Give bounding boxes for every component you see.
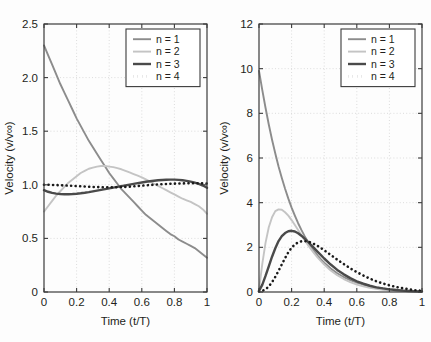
- chart-left: 00.20.40.60.8100.51.01.52.02.5Time (t/T)…: [0, 0, 216, 342]
- y-tick-label: 4: [247, 197, 254, 209]
- x-tick-label: 1: [204, 296, 210, 308]
- figure-container: 00.20.40.60.8100.51.01.52.02.5Time (t/T)…: [0, 0, 431, 342]
- legend-label-n2: n = 2: [156, 45, 180, 57]
- x-tick-label: 0.8: [166, 296, 182, 308]
- y-tick-label: 0: [247, 286, 253, 298]
- y-tick-label: 0: [32, 286, 38, 298]
- legend-label-n4: n = 4: [371, 70, 395, 82]
- x-tick-label: 0.6: [349, 296, 365, 308]
- x-tick-label: 0.4: [101, 296, 118, 308]
- x-tick-label: 0.8: [381, 296, 397, 308]
- y-tick-label: 6: [247, 152, 253, 164]
- series-line-n2: [259, 209, 422, 291]
- x-tick-label: 1: [419, 296, 425, 308]
- series-line-n1: [259, 71, 422, 291]
- y-tick-label: 2.0: [22, 72, 38, 84]
- y-tick-label: 1.5: [22, 125, 38, 137]
- x-tick-label: 0: [41, 296, 47, 308]
- y-axis-label: Velocity (v/v∞): [3, 121, 15, 195]
- x-tick-label: 0.4: [316, 296, 333, 308]
- y-tick-label: 2.5: [22, 18, 38, 30]
- legend-label-n4: n = 4: [156, 70, 180, 82]
- x-axis-label: Time (t/T): [101, 315, 151, 327]
- chart-panel-left: 00.20.40.60.8100.51.01.52.02.5Time (t/T)…: [0, 0, 216, 342]
- y-tick-label: 0.5: [22, 232, 38, 244]
- chart-right: 00.20.40.60.81024681012Time (t/T)Velocit…: [215, 0, 431, 342]
- legend-label-n3: n = 3: [156, 58, 180, 70]
- x-tick-label: 0: [256, 296, 262, 308]
- series-line-n4: [259, 241, 422, 291]
- y-tick-label: 12: [240, 18, 253, 30]
- x-tick-label: 0.2: [69, 296, 85, 308]
- y-tick-label: 1.0: [22, 179, 38, 191]
- series-line-n2: [44, 166, 207, 214]
- x-tick-label: 0.6: [134, 296, 150, 308]
- y-tick-label: 2: [247, 241, 253, 253]
- y-tick-label: 10: [240, 63, 253, 75]
- y-tick-label: 8: [247, 107, 253, 119]
- legend: n = 1n = 2n = 3n = 4: [341, 29, 415, 87]
- legend-label-n1: n = 1: [156, 33, 180, 45]
- legend-label-n2: n = 2: [371, 45, 395, 57]
- chart-panel-right: 00.20.40.60.81024681012Time (t/T)Velocit…: [215, 0, 431, 342]
- series-group: [259, 71, 422, 292]
- x-tick-label: 0.2: [284, 296, 300, 308]
- y-axis-label: Velocity (v/v∞): [218, 121, 230, 195]
- legend-label-n1: n = 1: [371, 33, 395, 45]
- legend: n = 1n = 2n = 3n = 4: [126, 29, 200, 87]
- legend-label-n3: n = 3: [371, 58, 395, 70]
- x-axis-label: Time (t/T): [316, 315, 366, 327]
